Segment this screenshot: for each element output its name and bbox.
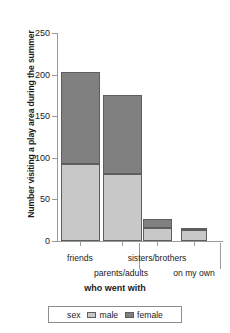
bar-segment-male	[103, 174, 142, 241]
legend-title: sex	[67, 310, 80, 320]
bar-segment-female	[143, 219, 172, 228]
x-category-label-parents-adults: parents/adults	[94, 268, 148, 278]
y-axis-title: Number visiting a play area during the s…	[26, 14, 36, 234]
label-separator-right	[220, 243, 221, 269]
bar-segment-female	[103, 95, 142, 174]
legend-swatch-female	[125, 312, 134, 318]
plot-area: 0 50 100 150 200 250	[57, 30, 223, 241]
y-tick-label-250: 250	[35, 28, 50, 38]
legend-item-female[interactable]: female	[125, 310, 163, 320]
bar-segment-male	[143, 228, 172, 241]
bar-segment-male	[61, 164, 100, 241]
bar-parents-adults[interactable]	[103, 95, 142, 241]
bar-on-my-own[interactable]	[181, 228, 207, 241]
y-tick-label-200: 200	[35, 70, 50, 80]
legend-label-male: male	[99, 310, 118, 320]
bar-segment-male	[181, 230, 207, 241]
legend-item-male[interactable]: male	[87, 310, 118, 320]
legend: sex male female	[48, 306, 182, 323]
bar-friends[interactable]	[61, 72, 100, 241]
x-tick-parents-adults	[122, 241, 123, 246]
chart-figure: Number visiting a play area during the s…	[0, 0, 230, 333]
legend-swatch-male	[87, 312, 96, 318]
y-tick-label-50: 50	[40, 194, 50, 204]
x-tick-sisters-brothers	[157, 241, 158, 246]
legend-label-female: female	[137, 310, 163, 320]
x-category-label-sisters-brothers: sisters/brothers	[128, 253, 187, 263]
bar-segment-female	[61, 72, 100, 164]
x-axis-title: who went with	[0, 283, 230, 293]
y-axis-line	[57, 33, 58, 241]
x-tick-friends	[80, 241, 81, 246]
x-category-label-friends: friends	[67, 253, 93, 263]
x-axis-line	[57, 241, 223, 242]
x-tick-on-my-own	[194, 241, 195, 246]
y-tick-label-0: 0	[45, 236, 50, 246]
x-category-label-on-my-own: on my own	[173, 268, 215, 278]
bar-segment-female	[181, 228, 207, 230]
y-tick-label-100: 100	[35, 153, 50, 163]
bar-sisters-brothers[interactable]	[143, 219, 172, 241]
y-tick-label-150: 150	[35, 111, 50, 121]
